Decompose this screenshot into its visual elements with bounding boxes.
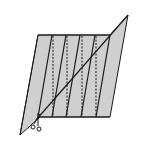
folding-diagram (0, 0, 153, 151)
